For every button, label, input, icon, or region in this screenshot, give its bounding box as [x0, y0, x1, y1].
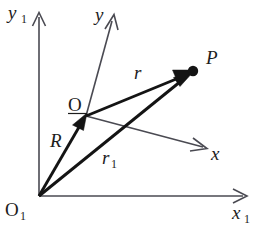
- axis-label-y: y: [93, 4, 104, 25]
- vector-label-r1: r: [102, 147, 110, 168]
- point-label-O: O: [68, 94, 82, 115]
- point-label-O1: O: [5, 199, 19, 220]
- vector-diagram-canvas: y 1 x 1 y x R r r 1 O 1 O P: [0, 0, 262, 234]
- point-label-O1-subscript: 1: [20, 209, 26, 223]
- axis-label-x: x: [210, 143, 220, 164]
- vector-diagram-figure: y 1 x 1 y x R r r 1 O 1 O P: [0, 0, 262, 234]
- vector-label-R: R: [49, 130, 62, 151]
- point-P-dot: [188, 66, 198, 76]
- axis-label-x1-subscript: 1: [244, 212, 250, 226]
- axis-label-y1-subscript: 1: [21, 12, 27, 26]
- vectors-group: [39, 70, 195, 196]
- vector-label-r: r: [134, 62, 142, 83]
- point-label-P: P: [205, 47, 218, 68]
- axis-label-x1: x: [231, 202, 241, 223]
- vector-label-r1-subscript: 1: [111, 157, 117, 171]
- y-axis-line: [86, 21, 112, 116]
- axis-label-y1: y: [6, 2, 17, 23]
- vector-R-arrowhead: [73, 113, 88, 131]
